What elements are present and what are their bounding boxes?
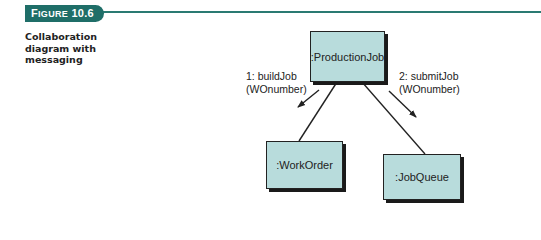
message-args: (WOnumber) [399,83,460,96]
message-args: (WOnumber) [246,83,307,96]
object-label: :WorkOrder [276,159,333,171]
message-label-2: 2: submitJob (WOnumber) [399,70,460,95]
object-production-job: :ProductionJob [310,31,385,82]
object-job-queue: :JobQueue [383,154,461,200]
object-label: :JobQueue [395,171,449,183]
message-name: 1: buildJob [246,70,307,83]
object-work-order: :WorkOrder [266,141,343,189]
object-label: :ProductionJob [311,51,384,63]
message-name: 2: submitJob [399,70,460,83]
message-label-1: 1: buildJob (WOnumber) [246,70,307,95]
